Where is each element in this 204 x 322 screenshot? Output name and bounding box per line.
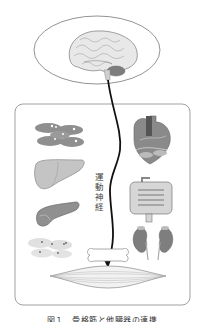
motor-nerve-line: [108, 80, 120, 262]
kidneys-icon: [133, 226, 173, 260]
bone-icon: [88, 248, 129, 261]
pancreas-icon: [37, 202, 80, 226]
diagram-canvas: [0, 0, 204, 322]
adipose-cells-icon: [35, 123, 84, 147]
intestine-icon: [130, 178, 172, 222]
skeletal-muscle-icon: [50, 266, 166, 288]
motor-nerve-label: 運動神経: [93, 172, 105, 212]
brain-icon: [69, 31, 137, 80]
liver-icon: [35, 160, 85, 189]
figure-caption: 図１ 骨格筋と他臓器の連携: [0, 314, 204, 322]
heart-icon: [134, 116, 170, 164]
fat-cells-icon: [28, 238, 72, 258]
